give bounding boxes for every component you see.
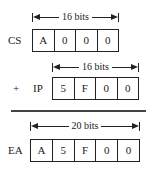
ea-register: A 5 F 0 0 bbox=[30, 139, 140, 162]
cs-label: CS bbox=[8, 29, 21, 52]
ip-digit: 0 bbox=[95, 78, 117, 99]
ea-digit: A bbox=[31, 140, 52, 161]
cs-digit: A bbox=[33, 30, 54, 51]
cs-width-arrow: 16 bits bbox=[32, 12, 119, 22]
cs-register: A 0 0 0 bbox=[32, 29, 119, 52]
plus-operator: + bbox=[13, 77, 19, 100]
ip-label: IP bbox=[33, 77, 43, 100]
cs-digit: 0 bbox=[75, 30, 97, 51]
sum-divider-line bbox=[11, 110, 146, 112]
ip-digit: 0 bbox=[117, 78, 139, 99]
ip-digit: 5 bbox=[53, 78, 74, 99]
ip-digit: F bbox=[74, 78, 96, 99]
cs-digit: 0 bbox=[54, 30, 76, 51]
ip-register: 5 F 0 0 bbox=[52, 77, 139, 100]
ea-digit: 5 bbox=[52, 140, 74, 161]
ea-digit: F bbox=[74, 140, 96, 161]
ea-digit: 0 bbox=[95, 140, 117, 161]
ea-width-arrow: 20 bits bbox=[30, 121, 140, 131]
cs-digit: 0 bbox=[97, 30, 119, 51]
ip-width-arrow: 16 bits bbox=[52, 62, 139, 72]
ea-label: EA bbox=[8, 139, 23, 162]
ip-width-label: 16 bits bbox=[79, 62, 112, 72]
cs-width-label: 16 bits bbox=[59, 12, 92, 22]
ea-digit: 0 bbox=[117, 140, 139, 161]
ea-width-label: 20 bits bbox=[69, 121, 102, 131]
